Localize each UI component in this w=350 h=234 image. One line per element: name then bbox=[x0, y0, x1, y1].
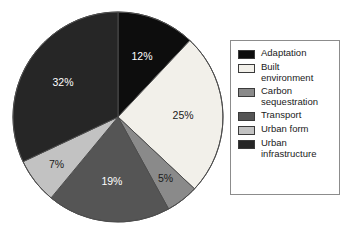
legend-item-adaptation: Adaptation bbox=[238, 48, 334, 59]
pie-slice-data-label: 12% bbox=[131, 50, 152, 62]
legend-swatch-icon-carbon-sequestration bbox=[238, 88, 255, 97]
legend-item-transport: Transport bbox=[238, 110, 334, 121]
legend-item-built-environment: Built environment bbox=[238, 62, 334, 83]
pie-chart-figure: 12%25%5%19%7%32% Adaptation Built enviro… bbox=[0, 0, 350, 234]
legend-swatch-icon-built-environment bbox=[238, 64, 255, 73]
legend-label-carbon-sequestration: Carbon sequestration bbox=[261, 86, 318, 107]
legend-swatch-icon-urban-infrastructure bbox=[238, 140, 255, 149]
legend-swatch-icon-urban-form bbox=[238, 126, 255, 135]
legend-item-carbon-sequestration: Carbon sequestration bbox=[238, 86, 334, 107]
pie-slice-data-label: 7% bbox=[49, 158, 64, 170]
legend-label-adaptation: Adaptation bbox=[261, 48, 306, 59]
legend-swatch-icon-adaptation bbox=[238, 50, 255, 59]
legend-label-built-environment: Built environment bbox=[261, 62, 313, 83]
pie-slice-data-label: 32% bbox=[52, 76, 73, 88]
legend-swatch-icon-transport bbox=[238, 112, 255, 121]
legend-label-urban-form: Urban form bbox=[261, 124, 309, 135]
pie-slice-data-label: 25% bbox=[173, 109, 194, 121]
legend-label-transport: Transport bbox=[261, 110, 301, 121]
pie-slice-data-label: 5% bbox=[158, 172, 173, 184]
legend-label-urban-infrastructure: Urban infrastructure bbox=[261, 138, 316, 159]
chart-legend: Adaptation Built environment Carbon sequ… bbox=[230, 40, 340, 195]
legend-item-urban-form: Urban form bbox=[238, 124, 334, 135]
legend-item-urban-infrastructure: Urban infrastructure bbox=[238, 138, 334, 159]
pie-slice-data-label: 19% bbox=[101, 175, 122, 187]
